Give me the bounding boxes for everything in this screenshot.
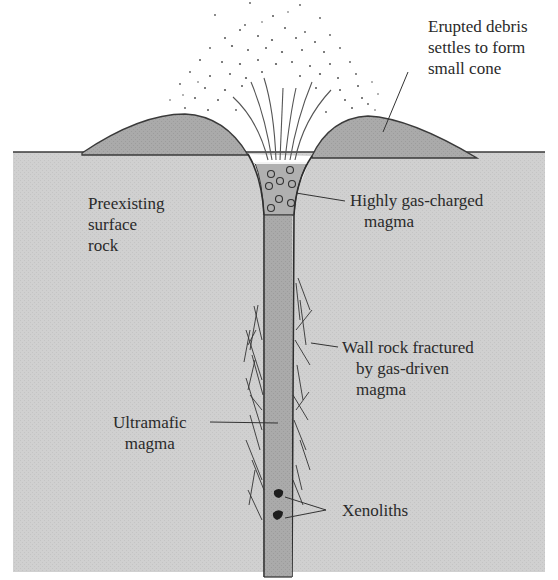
- volcanic-pipe-diagram: [0, 0, 558, 580]
- right-debris-cone: [312, 116, 477, 158]
- label-preexisting-rock: Preexisting surface rock: [88, 193, 165, 256]
- label-gas-charged-magma: Highly gas-charged magma: [350, 190, 483, 232]
- ultramafic-magma-conduit: [265, 215, 292, 577]
- label-xenoliths: Xenoliths: [342, 500, 408, 521]
- label-ultramafic-magma: Ultramafic magma: [113, 412, 187, 454]
- label-wall-rock-fractured: Wall rock fractured by gas-driven magma: [342, 337, 474, 400]
- label-erupted-debris: Erupted debris settles to form small con…: [428, 16, 528, 79]
- ejected-particles: [169, 2, 379, 113]
- left-debris-cone: [82, 114, 248, 155]
